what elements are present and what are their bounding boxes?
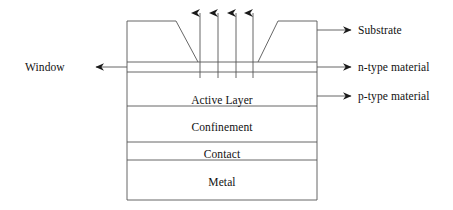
diagram-canvas: Active Layer Confinement Contact Metal S…	[0, 0, 453, 210]
layer-label-active-layer: Active Layer	[127, 95, 317, 107]
callout-label-n-type-material: n-type material	[358, 62, 429, 74]
callout-label-p-type-material: p-type material	[358, 91, 429, 103]
callout-label-substrate: Substrate	[358, 25, 402, 37]
layer-label-metal: Metal	[127, 177, 317, 189]
device-outline	[127, 21, 317, 200]
callout-label-window: Window	[25, 62, 65, 74]
layer-label-contact: Contact	[127, 149, 317, 161]
callout-leaders-right	[317, 30, 351, 96]
emission-arrows	[200, 13, 253, 78]
layer-dividers	[127, 62, 317, 160]
mesa-right-slope	[258, 21, 278, 62]
mesa-left-slope	[176, 21, 198, 62]
layer-label-confinement: Confinement	[127, 122, 317, 134]
